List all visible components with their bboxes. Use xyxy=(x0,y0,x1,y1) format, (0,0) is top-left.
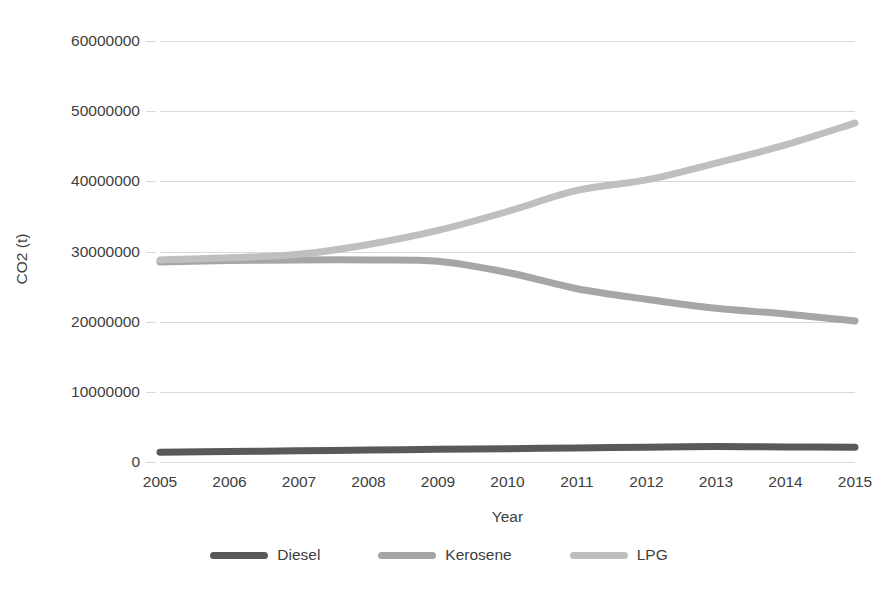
chart-legend: DieselKeroseneLPG xyxy=(0,541,878,569)
y-axis-tick-mark xyxy=(146,41,156,42)
plot-area xyxy=(160,41,855,462)
y-axis-tick-mark xyxy=(146,322,156,323)
y-axis-tick-label: 0 xyxy=(0,453,140,471)
line-swatch-icon xyxy=(378,552,436,559)
gridline xyxy=(160,252,855,253)
gridline xyxy=(160,41,855,42)
legend-label: Diesel xyxy=(277,546,320,564)
x-axis-tick-label: 2005 xyxy=(143,473,177,491)
y-axis-tick-mark xyxy=(146,462,156,463)
y-axis-tick-label: 50000000 xyxy=(0,102,140,120)
x-axis-tick-labels: 2005200620072008200920102011201220132014… xyxy=(160,473,855,497)
y-axis-tick-mark xyxy=(146,252,156,253)
y-axis-tick-label: 30000000 xyxy=(0,243,140,261)
line-swatch-icon xyxy=(210,552,268,559)
y-axis-tick-label: 60000000 xyxy=(0,32,140,50)
x-axis-tick-label: 2014 xyxy=(768,473,802,491)
legend-label: LPG xyxy=(637,546,668,564)
x-axis-tick-label: 2008 xyxy=(351,473,385,491)
y-axis-tick-mark xyxy=(146,392,156,393)
y-axis-tick-label: 20000000 xyxy=(0,313,140,331)
y-axis-tick-mark xyxy=(146,181,156,182)
y-axis-tick-mark xyxy=(146,111,156,112)
gridline xyxy=(160,462,855,463)
gridline xyxy=(160,392,855,393)
y-axis-tick-labels: 0100000002000000030000000400000005000000… xyxy=(0,0,150,595)
x-axis-tick-label: 2015 xyxy=(838,473,872,491)
x-axis-tick-label: 2013 xyxy=(699,473,733,491)
line-swatch-icon xyxy=(570,552,628,559)
x-axis-tick-label: 2007 xyxy=(282,473,316,491)
x-axis-tick-label: 2012 xyxy=(629,473,663,491)
legend-item-lpg[interactable]: LPG xyxy=(570,546,668,564)
legend-label: Kerosene xyxy=(445,546,511,564)
x-axis-tick-label: 2006 xyxy=(212,473,246,491)
x-axis-tick-label: 2010 xyxy=(490,473,524,491)
legend-item-diesel[interactable]: Diesel xyxy=(210,546,320,564)
y-axis-tick-label: 10000000 xyxy=(0,383,140,401)
y-axis-tick-label: 40000000 xyxy=(0,172,140,190)
x-axis-title: Year xyxy=(160,508,855,526)
gridline xyxy=(160,322,855,323)
x-axis-tick-label: 2011 xyxy=(560,473,593,491)
legend-item-kerosene[interactable]: Kerosene xyxy=(378,546,511,564)
line-chart: CO2 (t) 01000000020000000300000004000000… xyxy=(0,0,878,595)
x-axis-tick-label: 2009 xyxy=(421,473,455,491)
gridline xyxy=(160,181,855,182)
gridline xyxy=(160,111,855,112)
